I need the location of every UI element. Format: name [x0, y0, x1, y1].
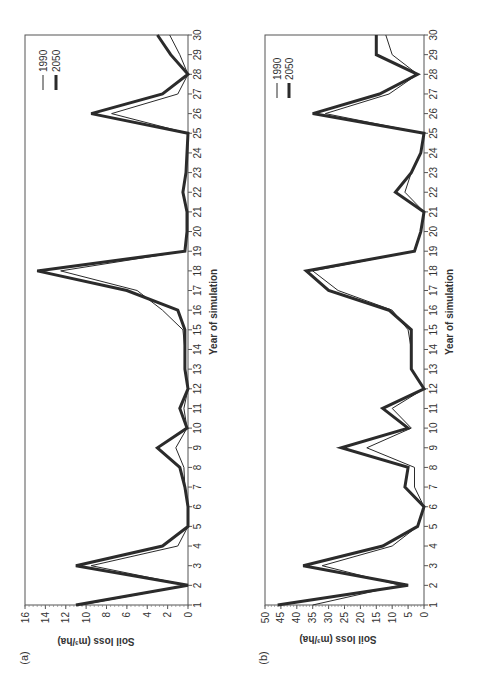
x-tick-label: 27 — [428, 88, 439, 100]
x-tick-label: 16 — [192, 304, 203, 316]
legend-label-1990: 1990 — [38, 49, 49, 72]
y-tick-label: 30 — [323, 612, 334, 624]
x-tick-label: 30 — [428, 29, 439, 41]
y-tick-label: 2 — [162, 612, 173, 618]
x-tick-label: 7 — [192, 484, 203, 490]
x-tick-label: 20 — [428, 226, 439, 238]
x-tick-label: 17 — [192, 285, 203, 297]
x-tick-label: 5 — [428, 523, 439, 529]
y-tick-label: 10 — [387, 612, 398, 624]
x-tick-label: 26 — [192, 108, 203, 120]
x-tick-label: 21 — [192, 206, 203, 218]
legend-label-2050: 2050 — [51, 49, 62, 72]
x-tick-label: 29 — [192, 49, 203, 61]
legend-label-1990: 1990 — [272, 57, 283, 80]
series-line-2050 — [37, 35, 188, 605]
y-tick-label: 15 — [371, 612, 382, 624]
x-tick-label: 17 — [428, 285, 439, 297]
x-tick-label: 24 — [192, 147, 203, 159]
x-tick-label: 22 — [192, 186, 203, 198]
y-tick-label: 14 — [40, 612, 51, 624]
y-tick-label: 0 — [419, 612, 430, 618]
x-tick-label: 25 — [428, 127, 439, 139]
y-axis-title-b: Soil loss (m³/ha) — [299, 634, 376, 645]
x-tick-label: 16 — [428, 304, 439, 316]
chart-panel-b: 05101520253035404550 1234567891011121314… — [257, 29, 455, 665]
y-tick-label: 45 — [275, 612, 286, 624]
x-tick-label: 29 — [428, 49, 439, 61]
soil-loss-figure: 0246810121416 12345678910111213141516171… — [0, 0, 484, 677]
series-line-1990 — [313, 35, 424, 605]
x-tick-label: 30 — [192, 29, 203, 41]
y-tick-label: 16 — [20, 612, 31, 624]
x-tick-label: 8 — [192, 464, 203, 470]
series-lines-b — [278, 35, 424, 605]
x-tick-label: 9 — [192, 445, 203, 451]
series-lines-a — [37, 35, 188, 605]
y-tick-label: 5 — [403, 612, 414, 618]
x-tick-label: 18 — [192, 265, 203, 277]
x-tick-label: 19 — [428, 245, 439, 257]
x-tick-label: 11 — [428, 403, 439, 414]
x-tick-label: 2 — [428, 582, 439, 588]
x-tick-label: 19 — [192, 245, 203, 257]
x-tick-label: 15 — [428, 324, 439, 336]
x-tick-label: 10 — [428, 422, 439, 434]
y-tick-label: 4 — [142, 612, 153, 618]
panel-label-b: (b) — [257, 651, 269, 664]
x-tick-label: 13 — [428, 363, 439, 375]
x-tick-label: 14 — [428, 343, 439, 355]
x-axis-title-a: Year of simulation — [208, 269, 219, 355]
x-tick-label: 6 — [428, 504, 439, 510]
y-tick-label: 50 — [260, 612, 271, 624]
x-tick-label: 15 — [192, 324, 203, 336]
y-tick-label: 12 — [60, 612, 71, 624]
x-tick-label: 9 — [428, 445, 439, 451]
x-tick-label: 4 — [428, 543, 439, 549]
x-tick-label: 21 — [428, 206, 439, 218]
x-tick-label: 28 — [428, 68, 439, 80]
x-tick-label: 4 — [192, 543, 203, 549]
x-tick-label: 20 — [192, 226, 203, 238]
y-tick-label: 40 — [291, 612, 302, 624]
y-tick-label: 35 — [307, 612, 318, 624]
x-axis-ticks-b: 1234567891011121314151617181920212223242… — [424, 29, 439, 608]
panel-label-a: (a) — [18, 651, 30, 664]
y-tick-label: 20 — [355, 612, 366, 624]
plot-frame-a — [25, 35, 188, 605]
x-tick-label: 5 — [192, 523, 203, 529]
x-axis-title-b: Year of simulation — [444, 269, 455, 355]
y-tick-label: 8 — [101, 612, 112, 618]
y-axis-title-a: Soil loss (m³/ha) — [57, 636, 134, 647]
x-axis-ticks-a: 1234567891011121314151617181920212223242… — [188, 29, 203, 608]
chart-panel-a: 0246810121416 12345678910111213141516171… — [18, 29, 219, 665]
y-tick-label: 0 — [183, 612, 194, 618]
y-tick-label: 10 — [81, 612, 92, 624]
x-tick-label: 18 — [428, 265, 439, 277]
x-tick-label: 12 — [428, 383, 439, 395]
x-tick-label: 13 — [192, 363, 203, 375]
legend-b: 1990 2050 — [272, 57, 295, 98]
x-tick-label: 3 — [192, 562, 203, 568]
x-tick-label: 1 — [428, 602, 439, 608]
x-tick-label: 23 — [192, 167, 203, 179]
x-tick-label: 14 — [192, 343, 203, 355]
y-axis-ticks-b: 05101520253035404550 — [260, 605, 430, 623]
x-tick-label: 26 — [428, 108, 439, 120]
x-tick-label: 1 — [192, 602, 203, 608]
x-tick-label: 25 — [192, 127, 203, 139]
x-tick-label: 3 — [428, 562, 439, 568]
x-tick-label: 7 — [428, 484, 439, 490]
x-tick-label: 2 — [192, 582, 203, 588]
x-tick-label: 8 — [428, 464, 439, 470]
x-tick-label: 22 — [428, 186, 439, 198]
y-tick-label: 25 — [339, 612, 350, 624]
x-tick-label: 28 — [192, 68, 203, 80]
legend-label-2050: 2050 — [284, 57, 295, 80]
y-axis-ticks-a: 0246810121416 — [20, 605, 194, 623]
x-tick-label: 11 — [192, 403, 203, 414]
x-tick-label: 12 — [192, 383, 203, 395]
y-tick-label: 6 — [121, 612, 132, 618]
x-tick-label: 23 — [428, 167, 439, 179]
x-tick-label: 24 — [428, 147, 439, 159]
